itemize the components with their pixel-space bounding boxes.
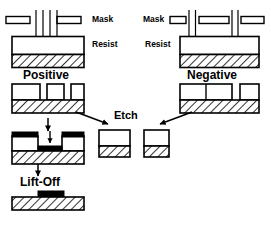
mask-label-left: Mask: [92, 15, 113, 24]
resist-label-right: Resist: [145, 40, 171, 49]
substrate-layer: [12, 55, 84, 68]
resist-block-2: [240, 84, 259, 100]
resist-block-3: [71, 84, 84, 100]
resist-layer: [12, 37, 84, 55]
substrate-layer: [144, 146, 169, 157]
liftoff-result-panel: [12, 191, 84, 210]
positive-title: Positive: [23, 69, 69, 81]
resist-label-left: Resist: [92, 40, 118, 49]
liftoff-title: Lift-Off: [20, 176, 60, 188]
mask-label-right: Mask: [143, 15, 164, 24]
etch-result-left-panel: [99, 130, 130, 157]
lithography-process-diagram: Mask Resist Mask Resist Positive Negativ…: [0, 0, 271, 226]
positive-developed-panel: [12, 84, 84, 113]
arrow-positive-to-etch: [76, 112, 108, 124]
mask-bar-center: [199, 17, 229, 24]
substrate-layer: [12, 100, 84, 113]
resist-layer: [180, 37, 259, 55]
positive-exposure-panel: [6, 10, 84, 68]
void-region: [99, 130, 130, 146]
void-region: [144, 130, 169, 146]
etch-title: Etch: [114, 110, 138, 121]
substrate-layer: [12, 151, 84, 164]
resist-block-2: [62, 136, 84, 151]
substrate-layer: [180, 100, 259, 113]
metal-feature: [38, 191, 64, 197]
substrate-layer: [180, 55, 259, 68]
etch-result-right-panel: [144, 130, 169, 157]
resist-block-1: [12, 84, 40, 100]
mask-bar-right: [57, 17, 81, 24]
mask-bar-left: [6, 17, 30, 24]
resist-block-1: [12, 136, 38, 151]
negative-exposure-panel: [170, 10, 264, 68]
arrow-negative-to-etch: [160, 112, 192, 124]
resist-block-2: [47, 84, 64, 100]
metal-cap-1: [12, 132, 38, 137]
substrate-layer: [99, 146, 130, 157]
mask-bar-left: [170, 17, 186, 24]
mask-bar-right: [241, 17, 264, 24]
negative-title: Negative: [187, 69, 237, 81]
metal-deposition-panel: [12, 131, 84, 164]
substrate-layer: [12, 197, 84, 210]
metal-cap-2: [62, 132, 84, 137]
negative-developed-panel: [180, 84, 259, 113]
